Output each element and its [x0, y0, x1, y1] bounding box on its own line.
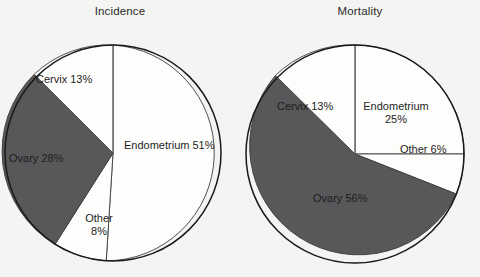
incidence-label-ovary: Ovary 28%	[9, 152, 63, 165]
mortality-title: Mortality	[240, 5, 480, 17]
pie-chart-figure: Incidence Mortality Cervix 13% Endometri…	[0, 0, 480, 277]
mortality-label-endometrium-line1: Endometrium	[355, 100, 437, 113]
mortality-label-endometrium: Endometrium 25%	[355, 100, 437, 126]
incidence-title: Incidence	[0, 5, 240, 17]
mortality-label-cervix: Cervix 13%	[277, 100, 333, 113]
incidence-label-other-line1: Other	[76, 212, 122, 225]
mortality-label-other: Other 6%	[400, 143, 446, 156]
mortality-label-endometrium-line2: 25%	[355, 113, 437, 126]
incidence-label-cervix: Cervix 13%	[36, 73, 92, 86]
mortality-label-ovary: Ovary 56%	[313, 192, 367, 205]
caption-cutoff-strip	[0, 269, 480, 277]
incidence-label-other: Other 8%	[76, 212, 122, 238]
panel-mortality: Mortality	[240, 0, 480, 277]
incidence-label-endometrium: Endometrium 51%	[124, 139, 215, 152]
incidence-label-other-line2: 8%	[76, 225, 122, 238]
